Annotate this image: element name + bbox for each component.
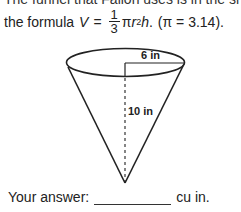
answer-blank[interactable]	[94, 194, 171, 205]
cone-diagram: 6 in 10 in	[0, 0, 241, 212]
cone-left-side	[68, 67, 125, 183]
height-label: 10 in	[128, 105, 153, 117]
answer-unit: cu in.	[176, 189, 209, 205]
answer-row: Your answer: cu in.	[8, 189, 210, 205]
answer-label: Your answer:	[8, 189, 89, 205]
radius-label: 6 in	[141, 49, 160, 61]
cone-right-side	[125, 64, 184, 183]
